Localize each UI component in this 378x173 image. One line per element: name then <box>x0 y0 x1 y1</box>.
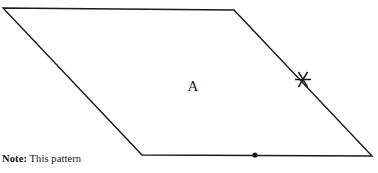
figure-canvas: A Note: This pattern <box>0 0 378 173</box>
star-tick-mark-icon <box>295 72 311 87</box>
note-caption: Note: This pattern <box>2 152 81 165</box>
note-body-text: This pattern <box>27 153 81 164</box>
midpoint-dot-marker <box>252 152 257 157</box>
note-label: Note: <box>2 153 27 164</box>
geometry-figure: A <box>0 0 378 173</box>
region-label-a: A <box>188 78 199 94</box>
